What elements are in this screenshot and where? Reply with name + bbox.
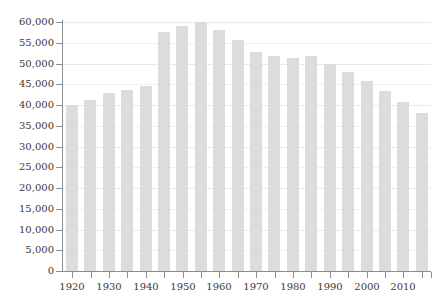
x-axis-tick [403, 272, 404, 278]
y-axis-tick-label: 35,000 [2, 121, 54, 131]
y-axis-tick-label: 50,000 [2, 59, 54, 69]
y-axis-tick-label: 55,000 [2, 38, 54, 48]
bar [121, 90, 133, 271]
y-axis-tick-label: 30,000 [2, 142, 54, 152]
y-axis-tick-label: 20,000 [2, 183, 54, 193]
x-axis-tick [238, 272, 239, 278]
x-axis-end-tick [431, 272, 432, 278]
x-axis-tick-label: 2000 [347, 281, 387, 292]
y-axis-tick [56, 230, 62, 231]
bar [176, 26, 188, 271]
x-axis-tick-label: 1920 [52, 281, 92, 292]
y-axis-tick [56, 147, 62, 148]
bar [324, 64, 336, 272]
bar [361, 81, 373, 271]
bar [140, 86, 152, 272]
y-axis-tick-label: 10,000 [2, 225, 54, 235]
y-axis-tick-label: 25,000 [2, 162, 54, 172]
x-axis-tick [146, 272, 147, 278]
bar [416, 113, 428, 271]
bar [103, 93, 115, 271]
bar [158, 32, 170, 271]
x-axis-tick [422, 272, 423, 278]
y-axis-tick-label: 40,000 [2, 100, 54, 110]
x-axis-tick-label: 1960 [199, 281, 239, 292]
x-axis-tick [256, 272, 257, 278]
x-axis-tick [201, 272, 202, 278]
x-axis-line [62, 271, 431, 272]
x-axis-tick [330, 272, 331, 278]
y-axis-tick [56, 22, 62, 23]
bar [305, 56, 317, 271]
x-axis-tick [385, 272, 386, 278]
bar [232, 40, 244, 271]
y-axis-tick-label: 15,000 [2, 204, 54, 214]
y-axis-tick [56, 105, 62, 106]
x-axis-tick-label: 1930 [89, 281, 129, 292]
x-axis-tick [127, 272, 128, 278]
y-axis-tick [56, 271, 62, 272]
y-axis-tick [56, 84, 62, 85]
x-axis-tick-label: 1940 [126, 281, 166, 292]
y-axis-tick [56, 250, 62, 251]
bar [250, 52, 262, 271]
bar [213, 30, 225, 271]
y-axis-tick [56, 209, 62, 210]
x-axis-tick [109, 272, 110, 278]
x-axis-tick-label: 1980 [273, 281, 313, 292]
y-axis-tick [56, 167, 62, 168]
x-axis-tick [183, 272, 184, 278]
y-axis-tick [56, 126, 62, 127]
y-axis-tick-label: 60,000 [2, 17, 54, 27]
bar [379, 91, 391, 271]
bar [84, 100, 96, 271]
y-axis-line [62, 20, 63, 272]
x-axis-tick [275, 272, 276, 278]
x-axis-tick [91, 272, 92, 278]
bar [397, 102, 409, 271]
y-axis-tick-label: 45,000 [2, 79, 54, 89]
bar [66, 105, 78, 271]
y-axis-labels: 60,00055,00050,00045,00040,00035,00030,0… [0, 0, 54, 304]
x-axis-tick-label: 1990 [310, 281, 350, 292]
bar-chart: 60,00055,00050,00045,00040,00035,00030,0… [0, 0, 441, 304]
x-axis-tick [348, 272, 349, 278]
y-axis-tick [56, 188, 62, 189]
y-axis-tick [56, 43, 62, 44]
x-axis-tick-label: 2010 [383, 281, 423, 292]
y-axis-tick [56, 64, 62, 65]
x-axis-tick [72, 272, 73, 278]
bar-group [63, 22, 431, 271]
plot-area [63, 22, 431, 271]
bar [195, 22, 207, 271]
y-axis-tick-label: 0 [2, 266, 54, 276]
x-axis-tick [293, 272, 294, 278]
x-axis-tick [164, 272, 165, 278]
y-axis-tick-label: 5,000 [2, 245, 54, 255]
x-axis-tick [219, 272, 220, 278]
bar [287, 58, 299, 271]
x-axis-tick-label: 1950 [163, 281, 203, 292]
bar [268, 56, 280, 271]
x-axis-tick-label: 1970 [236, 281, 276, 292]
x-axis-tick [367, 272, 368, 278]
bar [342, 72, 354, 271]
x-axis-tick [311, 272, 312, 278]
